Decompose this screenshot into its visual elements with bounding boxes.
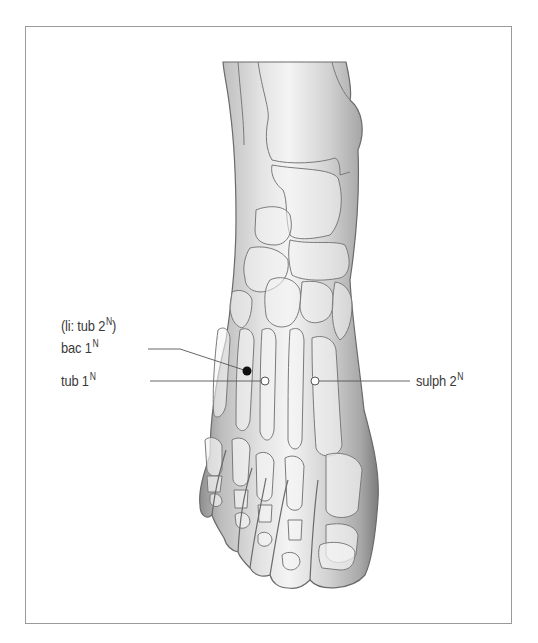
label-li-tub2-text: (li: tub 2 [61,317,105,334]
point-bac1 [243,367,252,376]
label-tub1-sup: N [90,371,96,382]
label-tub1-text: tub 1 [61,372,89,389]
label-sulph2: sulph 2N [416,372,463,388]
label-li-tub2: (li: tub 2N) [61,317,116,333]
point-tub1 [261,377,269,385]
label-tub1: tub 1N [61,372,96,388]
label-sulph2-text: sulph 2 [416,372,456,389]
label-sulph2-sup: N [457,371,463,382]
label-bac1: bac 1N [61,339,99,355]
label-bac1-sup: N [93,338,99,349]
label-bac1-text: bac 1 [61,339,92,356]
label-li-tub2-suffix: ) [112,317,116,334]
point-sulph2 [311,377,319,385]
